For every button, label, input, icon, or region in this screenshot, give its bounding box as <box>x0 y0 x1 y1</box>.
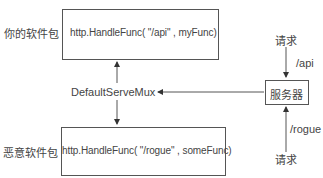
request-bottom-label: 请求 <box>275 151 297 167</box>
default-serve-mux-label: DefaultServeMux <box>71 86 155 98</box>
request-bottom-path: /rogue <box>290 123 321 135</box>
your-package-code: http.HandleFunc( "/api" , myFunc) <box>70 27 217 38</box>
your-package-label: 你的软件包 <box>4 25 59 41</box>
request-top-path: /api <box>296 57 314 69</box>
rogue-package-label: 恶意软件包 <box>3 144 58 160</box>
request-top-label: 请求 <box>275 32 297 48</box>
server-label: 服务器 <box>270 86 303 102</box>
rogue-package-code: http.HandleFunc( "/rogue" , someFunc) <box>62 145 232 156</box>
